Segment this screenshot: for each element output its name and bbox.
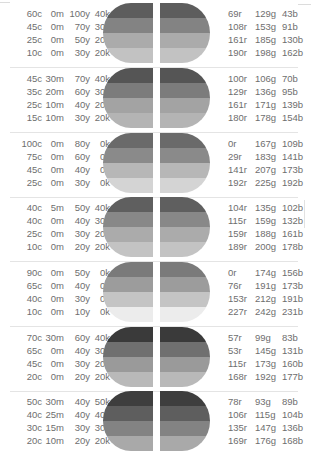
- cmyk-c-value: 65c: [20, 279, 42, 292]
- swatch-group: 100c0m80y0k75c0m60y0k45c0m40y0k25c0m30y0…: [10, 133, 298, 195]
- rgb-row: 57r99g83b: [228, 331, 308, 344]
- cmyk-y-value: 50y: [66, 201, 90, 214]
- cmyk-m-value: 0m: [44, 227, 64, 240]
- rgb-values: 104r135g102b115r159g132b159r188g161b189r…: [228, 201, 308, 253]
- cmyk-y-value: 50y: [66, 33, 90, 46]
- swatch-stripe: [160, 242, 210, 257]
- rgb-row: 115r159g132b: [228, 214, 308, 227]
- swatch-stripe: [160, 262, 210, 277]
- cmyk-values: 45c30m70y40k35c20m60y30k25c10m40y20k15c1…: [20, 72, 110, 124]
- swatch-stripe: [103, 342, 153, 357]
- rgb-r-value: 76r: [228, 279, 242, 292]
- rgb-g-value: 242g: [255, 305, 276, 318]
- cmyk-c-value: 45c: [20, 357, 42, 370]
- rgb-g-value: 171g: [255, 98, 276, 111]
- cmyk-c-value: 25c: [20, 98, 42, 111]
- swatch-group: 40c5m50y40k40c0m40y30k25c0m30y20k10c0m20…: [10, 197, 298, 259]
- rgb-b-value: 161b: [282, 227, 303, 240]
- cmyk-m-value: 0m: [44, 163, 64, 176]
- cmyk-c-value: 45c: [20, 72, 42, 85]
- rgb-r-value: 192r: [228, 176, 247, 189]
- rgb-b-value: 43b: [282, 7, 298, 20]
- rgb-r-value: 169r: [228, 434, 247, 447]
- cmyk-c-value: 25c: [20, 227, 42, 240]
- swatch-stripe: [160, 83, 210, 98]
- cmyk-y-value: 20y: [66, 240, 90, 253]
- cmyk-row: 25c0m30y0k: [20, 176, 110, 189]
- rgb-b-value: 70b: [282, 72, 298, 85]
- rgb-row: 190r198g162b: [228, 46, 308, 59]
- cmyk-c-value: 20c: [20, 370, 42, 383]
- cmyk-row: 75c0m60y0k: [20, 150, 110, 163]
- swatch-stripe: [160, 3, 210, 18]
- rgb-values: 78r93g89b106r115g104b135r147g136b169r176…: [228, 395, 308, 447]
- rgb-r-value: 129r: [228, 85, 247, 98]
- cmyk-row: 30c15m30y30k: [20, 421, 110, 434]
- rgb-row: 169r176g168b: [228, 434, 308, 447]
- color-swatch-right-half: [160, 197, 210, 257]
- cmyk-c-value: 100c: [20, 137, 42, 150]
- cmyk-row: 25c10m40y20k: [20, 98, 110, 111]
- cmyk-y-value: 70y: [66, 20, 90, 33]
- swatch-stripe: [160, 133, 210, 148]
- cmyk-row: 10c0m20y20k: [20, 240, 110, 253]
- cmyk-y-value: 40y: [66, 163, 90, 176]
- swatch-stripe: [103, 163, 153, 178]
- swatch-stripe: [160, 307, 210, 322]
- cmyk-row: 25c0m50y20k: [20, 33, 110, 46]
- swatch-stripe: [103, 242, 153, 257]
- rgb-r-value: 0r: [228, 266, 236, 279]
- swatch-stripe: [103, 148, 153, 163]
- cmyk-y-value: 20y: [66, 370, 90, 383]
- color-swatch-left-half: [103, 68, 153, 128]
- cmyk-y-value: 40y: [66, 344, 90, 357]
- swatch-stripe: [160, 277, 210, 292]
- cmyk-m-value: 0m: [44, 176, 64, 189]
- rgb-b-value: 156b: [282, 266, 303, 279]
- swatch-group: 70c30m60y40k65c0m40y30k45c0m30y20k20c0m2…: [10, 327, 298, 389]
- cmyk-c-value: 65c: [20, 344, 42, 357]
- cmyk-m-value: 30m: [44, 395, 64, 408]
- cmyk-m-value: 15m: [44, 421, 64, 434]
- rgb-g-value: 225g: [255, 176, 276, 189]
- rgb-b-value: 139b: [282, 98, 303, 111]
- rgb-row: 0r167g109b: [228, 137, 308, 150]
- cmyk-y-value: 30y: [66, 227, 90, 240]
- cmyk-c-value: 15c: [20, 111, 42, 124]
- cmyk-m-value: 0m: [44, 46, 64, 59]
- swatch-group: 60c0m100y40k45c0m70y30k25c0m50y20k10c0m3…: [10, 3, 298, 65]
- rgb-values: 0r167g109b29r183g141b141r207g173b192r225…: [228, 137, 308, 189]
- cmyk-y-value: 40y: [66, 279, 90, 292]
- rgb-r-value: 161r: [228, 98, 247, 111]
- cmyk-y-value: 70y: [66, 72, 90, 85]
- rgb-r-value: 106r: [228, 408, 247, 421]
- rgb-g-value: 176g: [255, 434, 276, 447]
- swatch-stripe: [103, 18, 153, 33]
- cmyk-y-value: 40y: [66, 408, 90, 421]
- swatch-stripe: [103, 421, 153, 436]
- rgb-b-value: 89b: [282, 395, 298, 408]
- cmyk-y-value: 60y: [66, 331, 90, 344]
- color-swatch-left-half: [103, 3, 153, 63]
- cmyk-row: 40c0m30y0k: [20, 292, 110, 305]
- cmyk-c-value: 10c: [20, 240, 42, 253]
- rgb-row: 0r174g156b: [228, 266, 308, 279]
- cmyk-m-value: 0m: [44, 344, 64, 357]
- color-swatch-right-half: [160, 133, 210, 193]
- swatch-stripe: [103, 436, 153, 451]
- rgb-g-value: 192g: [255, 370, 276, 383]
- swatch-stripe: [103, 327, 153, 342]
- rgb-b-value: 141b: [282, 150, 303, 163]
- swatch-stripe: [160, 327, 210, 342]
- swatch-stripe: [103, 307, 153, 322]
- cmyk-row: 65c0m40y30k: [20, 344, 110, 357]
- cmyk-m-value: 0m: [44, 240, 64, 253]
- rgb-g-value: 93g: [255, 395, 271, 408]
- rgb-b-value: 231b: [282, 305, 303, 318]
- rgb-g-value: 99g: [255, 331, 271, 344]
- cmyk-c-value: 45c: [20, 163, 42, 176]
- swatch-stripe: [103, 178, 153, 193]
- swatch-stripe: [160, 421, 210, 436]
- rgb-r-value: 168r: [228, 370, 247, 383]
- rgb-g-value: 188g: [255, 227, 276, 240]
